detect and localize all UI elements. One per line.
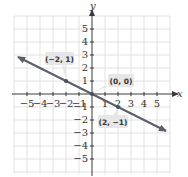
axes bbox=[12, 10, 178, 176]
y-tick-label: 1 bbox=[82, 75, 88, 86]
x-tick-label: 5 bbox=[154, 98, 160, 109]
callout-2-neg1: (2, −1) bbox=[98, 115, 128, 128]
callout-label: (0, 0) bbox=[110, 77, 133, 86]
point-2-neg1 bbox=[116, 105, 120, 109]
x-axis-label: x bbox=[177, 88, 183, 99]
x-tick-label: 4 bbox=[141, 98, 147, 109]
y-tick-label: 4 bbox=[82, 36, 88, 47]
y-tick-label: 2 bbox=[82, 62, 88, 73]
point-neg2-1 bbox=[64, 79, 68, 83]
y-tick-label: −4 bbox=[73, 140, 88, 151]
callout-neg2-1: (−2, 1) bbox=[45, 52, 74, 65]
callout-origin: (0, 0) bbox=[108, 74, 134, 87]
callout-label: (−2, 1) bbox=[45, 55, 74, 64]
y-tick-label: −3 bbox=[73, 127, 88, 138]
point-origin bbox=[90, 92, 94, 96]
y-tick-label: 3 bbox=[82, 49, 88, 60]
y-tick-label: 5 bbox=[82, 23, 88, 34]
coordinate-plane-chart: −5 −4 −3 −2 −1 1 2 3 4 5 5 4 3 2 1 −1 −2… bbox=[0, 0, 188, 177]
y-tick-label: −1 bbox=[73, 101, 88, 112]
y-tick-label: −5 bbox=[73, 153, 88, 164]
callout-label: (2, −1) bbox=[98, 118, 127, 127]
y-tick-label: −2 bbox=[73, 114, 88, 125]
x-tick-label: 3 bbox=[128, 98, 134, 109]
y-axis-label: y bbox=[89, 0, 96, 11]
